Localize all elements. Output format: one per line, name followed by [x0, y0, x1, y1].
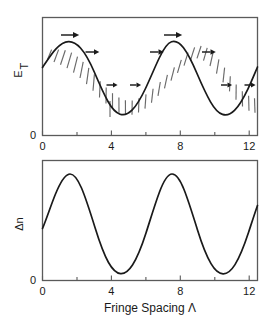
bottom-panel-ylabel: Δn: [13, 217, 25, 230]
top-panel-ylabel-text: E: [12, 70, 24, 77]
top-panel-ylabel-subscript: T: [18, 62, 30, 69]
top-xtick-12: 12: [243, 140, 255, 152]
bottom-panel-zero-label: 0: [30, 274, 36, 286]
bottom-xtick-12: 12: [243, 285, 255, 297]
top-xtick-0: 0: [39, 140, 45, 152]
bottom-xtick-8: 8: [177, 285, 183, 297]
bottom-xtick-4: 4: [108, 285, 114, 297]
top-xtick-4: 4: [108, 140, 114, 152]
x-axis-title: Fringe Spacing Λ: [104, 301, 196, 315]
two-panel-sinusoid-figure: E T 0 0 4 8 12 Δ: [0, 0, 269, 322]
bottom-xtick-0: 0: [39, 285, 45, 297]
top-xtick-8: 8: [177, 140, 183, 152]
figure-container: E T 0 0 4 8 12 Δ: [0, 0, 269, 322]
top-panel-zero-label: 0: [30, 129, 36, 141]
